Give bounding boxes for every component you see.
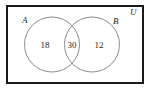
region-value-intersection: 30 xyxy=(68,41,77,50)
set-a-label: A xyxy=(22,16,28,25)
region-value-b-only: 12 xyxy=(95,41,104,50)
region-value-a-only: 18 xyxy=(41,41,50,50)
venn-diagram-figure: A B U 18 30 12 xyxy=(0,0,152,91)
set-b-label: B xyxy=(113,17,119,26)
universal-set-label: U xyxy=(130,8,137,17)
